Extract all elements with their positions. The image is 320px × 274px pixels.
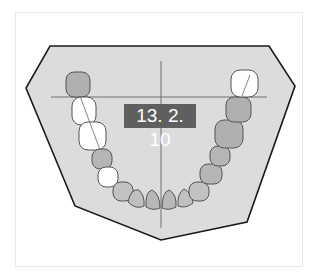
tooth-right-premolar-erupted-2 — [210, 146, 230, 166]
tooth-left-molar-unerupted-1 — [72, 97, 96, 125]
tooth-left-molar-erupted — [66, 72, 90, 97]
tooth-right-molar-unerupted — [231, 70, 258, 97]
tooth-left-premolar-erupted — [92, 149, 112, 169]
tooth-right-molar-erupted-1 — [215, 120, 243, 148]
tooth-right-molar-erupted-2 — [226, 97, 251, 122]
tooth-left-molar-unerupted-2 — [79, 122, 106, 150]
measurement-label: 13. 2. 10 — [124, 104, 196, 128]
tooth-right-premolar-erupted-1 — [200, 164, 222, 184]
tooth-right-canine — [189, 182, 209, 201]
